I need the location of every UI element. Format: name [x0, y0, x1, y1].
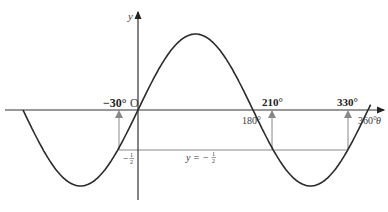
tick-label-180: 180°: [242, 115, 261, 126]
label-330: 330°: [337, 96, 358, 108]
origin-label: O: [130, 96, 139, 110]
svg-text:2: 2: [212, 158, 215, 164]
svg-text:1: 1: [130, 152, 133, 158]
svg-text:y = −: y = −: [185, 152, 209, 163]
graph-canvas: y θ O −30° 210° 330° 180° 360° − 1 2 y =…: [0, 0, 388, 212]
svg-text:−: −: [123, 153, 129, 164]
tick-label-minus-half: − 1 2: [123, 152, 134, 165]
sine-graph-diagram: y θ O −30° 210° 330° 180° 360° − 1 2 y =…: [0, 0, 388, 212]
label-minus-30: −30°: [103, 96, 127, 110]
label-210: 210°: [262, 96, 283, 108]
svg-text:1: 1: [212, 151, 215, 157]
tick-label-360: 360°: [358, 115, 377, 126]
line-label-y-minus-half: y = − 1 2: [185, 151, 216, 164]
svg-text:2: 2: [130, 159, 133, 165]
y-axis-label: y: [127, 10, 133, 22]
solution-arrows: [115, 110, 352, 150]
